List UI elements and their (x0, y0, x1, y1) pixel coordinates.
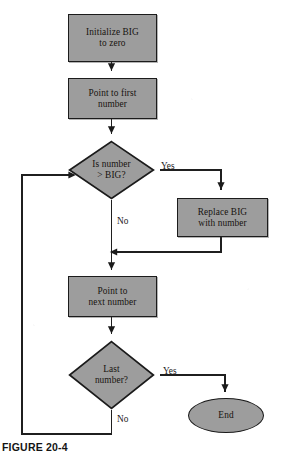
node-initialize-big-label: Initialize BIG to zero (69, 15, 156, 61)
edge-decision-yes-to-replace (160, 170, 221, 190)
node-replace-big: Replace BIG with number (177, 198, 268, 237)
node-replace-big-line1: Replace BIG (198, 207, 247, 218)
edge-replace-to-merge (117, 235, 221, 252)
node-point-to-next: Point to next number (68, 276, 157, 317)
node-point-to-first-line1: Point to first (89, 88, 137, 99)
node-point-to-next-label: Point to next number (69, 277, 156, 316)
node-initialize-big-line2: to zero (99, 38, 125, 49)
node-replace-big-label: Replace BIG with number (178, 199, 267, 236)
node-end-line1: End (218, 410, 233, 421)
edge-label-no-bottom: No (117, 414, 128, 424)
edge-last-yes-to-end (160, 375, 225, 392)
node-end-label: End (189, 399, 263, 432)
node-initialize-big: Initialize BIG to zero (68, 14, 157, 62)
edge-label-yes-top: Yes (161, 161, 175, 171)
node-initialize-big-line1: Initialize BIG (86, 27, 139, 38)
node-replace-big-line2: with number (198, 218, 246, 229)
node-point-to-next-line2: next number (89, 297, 137, 308)
figure-caption: FIGURE 20-4 (2, 441, 68, 452)
node-last-number: Last number? (68, 340, 155, 410)
edge-label-no-top: No (117, 216, 128, 226)
node-end: End (188, 398, 264, 433)
decision-diamond-shape (68, 340, 155, 410)
node-point-to-next-line1: Point to (98, 286, 128, 297)
node-is-number-greater: Is number > BIG? (68, 140, 155, 200)
node-point-to-first-label: Point to first number (69, 79, 156, 118)
edge-label-yes-bottom: Yes (163, 366, 177, 376)
node-point-to-first-line2: number (98, 99, 127, 110)
decision-diamond-shape (68, 140, 155, 200)
node-point-to-first: Point to first number (68, 78, 157, 119)
